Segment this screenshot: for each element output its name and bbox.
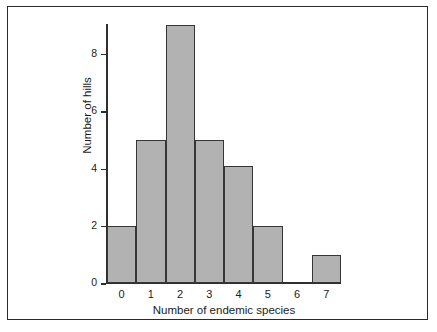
x-tick-label: 1 bbox=[136, 287, 166, 301]
x-tick-label: 0 bbox=[107, 287, 137, 301]
y-tick-4: 4 bbox=[101, 169, 106, 171]
x-tick-label: 6 bbox=[282, 287, 312, 301]
histogram-bar bbox=[253, 226, 282, 283]
x-tick-label: 3 bbox=[194, 287, 224, 301]
y-tick-2: 2 bbox=[101, 226, 106, 228]
histogram-bar bbox=[312, 255, 341, 284]
histogram-bar bbox=[136, 140, 165, 283]
histogram-bar bbox=[107, 226, 136, 283]
figure-container: 02468 01234567 Number of endemic species… bbox=[0, 0, 437, 332]
histogram-plot-area: 02468 01234567 Number of endemic species… bbox=[0, 0, 437, 332]
y-tick-0: 0 bbox=[101, 283, 106, 285]
y-tick-label: 2 bbox=[91, 219, 97, 232]
x-axis-title: Number of endemic species bbox=[107, 303, 341, 318]
y-tick-6: 6 bbox=[101, 111, 106, 113]
x-tick-label: 4 bbox=[224, 287, 254, 301]
histogram-bar bbox=[224, 166, 253, 284]
x-tick-label: 2 bbox=[165, 287, 195, 301]
y-tick-8: 8 bbox=[101, 54, 106, 56]
histogram-bar bbox=[166, 25, 195, 283]
y-tick-label: 8 bbox=[91, 47, 97, 60]
x-tick-label: 7 bbox=[311, 287, 341, 301]
y-tick-label: 0 bbox=[91, 276, 97, 289]
y-tick-label: 4 bbox=[91, 162, 97, 175]
histogram-bar bbox=[195, 140, 224, 283]
y-axis-title: Number of hills bbox=[80, 77, 95, 154]
x-tick-label: 5 bbox=[253, 287, 283, 301]
